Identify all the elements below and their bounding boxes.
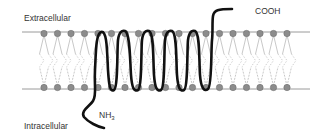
lipid-tail	[229, 35, 234, 54]
lipid-tail	[53, 67, 58, 86]
lipid-tail	[76, 54, 81, 67]
lipid-tail	[269, 35, 274, 54]
lipid-tail	[283, 67, 288, 86]
lipid-tail	[233, 67, 238, 86]
lipid-tail	[53, 35, 58, 54]
lipid-tail	[170, 54, 175, 67]
lipid-tail	[256, 67, 261, 86]
lipid-tail	[215, 54, 220, 67]
lipid-tail	[256, 54, 261, 67]
lipid-tail	[121, 54, 126, 67]
lipid-head	[108, 30, 114, 36]
lipid-tail	[179, 35, 184, 54]
lipid-tail	[202, 35, 207, 54]
lipid-head	[216, 30, 222, 36]
lipid-tail	[242, 35, 247, 54]
lipid-tail	[67, 67, 72, 86]
lipid-tail	[193, 35, 198, 54]
lipid-tail	[44, 35, 49, 54]
lipid-tail	[265, 54, 270, 67]
lipid-head	[189, 84, 195, 90]
lipid-tail	[166, 67, 171, 86]
lipid-tail	[40, 54, 45, 67]
lipid-head	[257, 30, 263, 36]
lipid-tail	[229, 67, 234, 86]
lipid-tail	[229, 54, 234, 67]
lipid-tail	[274, 67, 279, 86]
lipid-tail	[220, 35, 225, 54]
lipid-tail	[269, 54, 274, 67]
lipid-tail	[85, 35, 90, 54]
lipid-tail	[224, 54, 229, 67]
lipid-tail	[242, 54, 247, 67]
lipid-tail	[58, 67, 63, 86]
lipid-tail	[251, 54, 256, 67]
lipid-tail	[278, 54, 283, 67]
lipid-head	[203, 30, 209, 36]
lipid-tail	[134, 54, 139, 67]
c-terminus-label: COOH	[255, 7, 281, 16]
lipid-tail	[215, 35, 220, 54]
lipid-head	[81, 30, 87, 36]
intracellular-label: Intracellular	[24, 122, 68, 131]
lipid-tail	[49, 54, 54, 67]
lipid-tail	[67, 54, 72, 67]
lipid-tail	[233, 35, 238, 54]
lipid-tails	[40, 35, 297, 86]
lipid-tail	[134, 67, 139, 86]
lipid-tail	[260, 35, 265, 54]
lipid-head	[243, 84, 249, 90]
lipid-tail	[80, 54, 85, 67]
lipid-tail	[85, 67, 90, 86]
lipid-head	[284, 30, 290, 36]
lipid-tail	[238, 54, 243, 67]
lipid-tail	[80, 35, 85, 54]
lipid-head	[230, 84, 236, 90]
lipid-head	[41, 84, 47, 90]
lipid-tail	[80, 67, 85, 86]
lipid-tail	[89, 54, 94, 67]
lipid-tail	[98, 67, 103, 86]
lipid-tail	[157, 54, 162, 67]
lipid-head	[68, 30, 74, 36]
lipid-tail	[283, 35, 288, 54]
lipid-tail	[62, 54, 67, 67]
lipid-tail	[44, 67, 49, 86]
lipid-tail	[53, 54, 58, 67]
extracellular-label: Extracellular	[24, 14, 71, 23]
lipid-tail	[112, 35, 117, 54]
lipid-tail	[215, 67, 220, 86]
n-terminus-label: NH3	[99, 111, 115, 121]
lipid-tail	[40, 35, 45, 54]
n-terminus-subscript: 3	[111, 115, 114, 121]
lipid-head	[54, 30, 60, 36]
lipid-tail	[148, 67, 153, 86]
lipid-tail	[247, 67, 252, 86]
lipid-tail	[260, 67, 265, 86]
lipid-tail	[188, 67, 193, 86]
lipid-tail	[206, 35, 211, 54]
lipid-tail	[287, 67, 292, 86]
lipid-tail	[179, 67, 184, 86]
lipid-head	[216, 84, 222, 90]
lipid-head	[270, 30, 276, 36]
lipid-tail	[287, 35, 292, 54]
lipid-head	[176, 30, 182, 36]
lipid-head	[81, 84, 87, 90]
lipid-head	[41, 30, 47, 36]
lipid-head	[68, 84, 74, 90]
lipid-tail	[292, 54, 297, 67]
lipid-tail	[242, 67, 247, 86]
lipid-head	[122, 84, 128, 90]
lipid-tail	[67, 35, 72, 54]
lipid-head	[135, 30, 141, 36]
lipid-head	[243, 30, 249, 36]
lipid-tail	[193, 67, 198, 86]
lipid-head	[230, 30, 236, 36]
lipid-tail	[247, 35, 252, 54]
lipid-tail	[143, 54, 148, 67]
lipid-tail	[202, 54, 207, 67]
lipid-head	[270, 84, 276, 90]
lipid-head	[54, 84, 60, 90]
lipid-tail	[269, 67, 274, 86]
